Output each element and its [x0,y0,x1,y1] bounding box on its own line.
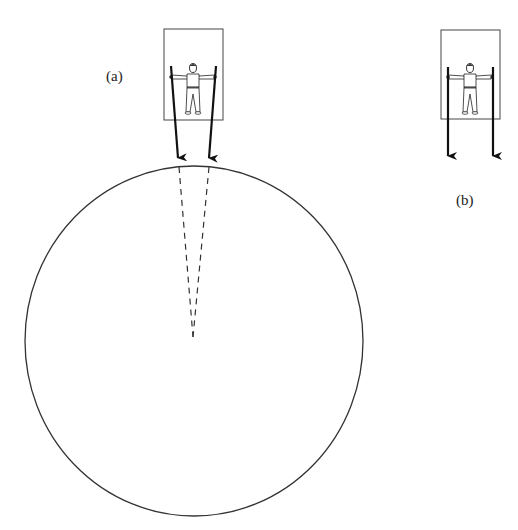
converging-dashed-lines [179,167,209,337]
label-a: (a) [106,68,123,85]
person-figure-b [446,64,494,115]
label-b: (b) [456,192,474,209]
person-figure-a [169,64,217,115]
diagram-canvas: (a) (b) [0,0,518,530]
panel-a [164,29,223,158]
earth-circle [25,166,363,516]
panel-b [441,30,500,156]
plumb-line-right-a [209,66,216,158]
plumb-line-left-a [171,66,178,158]
